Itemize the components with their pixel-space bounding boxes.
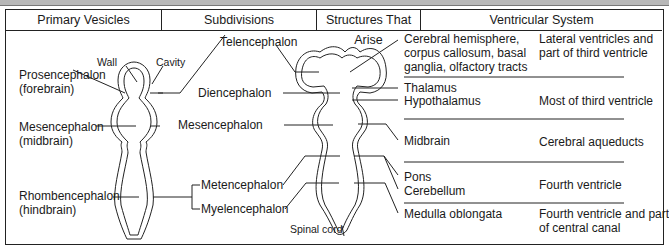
structures-row-1-line-2: corpus callosum, basal	[404, 46, 526, 60]
wall-label: Wall	[97, 56, 117, 68]
forebrain-label: (forebrain)	[19, 82, 74, 96]
ventricular-row-5-line-1: Fourth ventricle and part	[539, 207, 669, 221]
structures-row-1-line-1: Cerebral hemisphere,	[404, 32, 519, 46]
ventricular-row-4: Fourth ventricle	[539, 178, 622, 192]
ventricular-row-1-line-1: Lateral ventricles and	[539, 32, 653, 46]
structures-row-2-line-2: Hypothalamus	[404, 94, 481, 108]
spinal-cord-label: Spinal cord	[290, 223, 343, 235]
cavity-label: Cavity	[156, 56, 186, 68]
ventricular-row-3: Cerebral aqueducts	[539, 135, 644, 149]
subdivision-outer-wall	[296, 47, 387, 235]
primary-vesicle-outer-wall	[111, 62, 157, 239]
structures-row-5: Medulla oblongata	[404, 207, 502, 221]
mesencephalon-primary-label: Mesencephalon	[19, 120, 104, 134]
structures-row-4-line-2: Cerebellum	[404, 184, 465, 198]
telencephalon-label: Telencephalon	[220, 35, 297, 49]
ventricular-row-2: Most of third ventricle	[539, 94, 653, 108]
structures-row-2-line-1: Thalamus	[404, 81, 457, 95]
mesencephalon-label: Mesencephalon	[178, 118, 263, 132]
midbrain-common-label: (midbrain)	[19, 134, 73, 148]
prosencephalon-label: Prosencephalon	[19, 68, 106, 82]
leader-line	[354, 183, 398, 213]
leader-line	[354, 156, 398, 175]
hindbrain-label: (hindbrain)	[19, 203, 76, 217]
ventricular-row-1-line-2: part of third ventricle	[539, 46, 648, 60]
leader-line	[350, 40, 398, 72]
rhombencephalon-label: Rhombencephalon	[19, 189, 120, 203]
subdivision-inner-wall	[301, 54, 380, 231]
metencephalon-label: Metencephalon	[201, 178, 283, 192]
leader-line	[276, 45, 319, 72]
structures-row-4-line-1: Pons	[404, 170, 431, 184]
brain-vesicle-diagram: Wall Cavity Prosencephalon (forebrain) M…	[0, 0, 669, 250]
leader-line	[152, 66, 163, 84]
myelencephalon-label: Myelencephalon	[201, 202, 288, 216]
ventricular-row-5-line-2: of central canal	[539, 221, 620, 235]
structures-row-1-line-3: ganglia, olfactory tracts	[404, 60, 527, 74]
structures-row-3: Midbrain	[404, 134, 450, 148]
leader-line	[285, 183, 339, 209]
leader-line	[283, 156, 340, 185]
diencephalon-label: Diencephalon	[198, 86, 271, 100]
